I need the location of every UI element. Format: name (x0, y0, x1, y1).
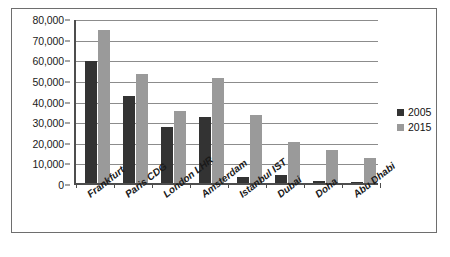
legend-swatch-2015-icon (397, 124, 404, 131)
bar-2015-frankfurt (98, 30, 110, 183)
bar-2015-amsterdam (212, 78, 224, 183)
y-tick-label: 60,000 (32, 55, 64, 67)
legend-label-2015: 2015 (408, 121, 431, 133)
x-tick-mark (76, 183, 77, 188)
y-tick-mark (65, 185, 70, 186)
bar-group (78, 20, 116, 183)
y-tick-label: 20,000 (32, 138, 64, 150)
y-tick-label: 0 (58, 179, 64, 191)
x-tick-mark (114, 183, 115, 188)
legend-label-2005: 2005 (408, 106, 431, 118)
y-tick-label: 80,000 (32, 14, 64, 26)
y-tick-mark (65, 40, 70, 41)
bar-group (268, 20, 306, 183)
y-axis: 80,00070,00060,00050,00040,00030,00020,0… (12, 20, 70, 185)
y-tick-label: 40,000 (32, 97, 64, 109)
bar-2005-london-lhr (161, 127, 173, 183)
x-tick-mark (152, 183, 153, 188)
legend-swatch-2005-icon (397, 109, 404, 116)
y-tick-mark (65, 81, 70, 82)
y-tick-mark (65, 102, 70, 103)
x-tick-mark (304, 183, 305, 188)
x-tick-mark (228, 183, 229, 188)
x-tick-mark (342, 183, 343, 188)
plot-area (74, 20, 378, 185)
y-tick-label: 10,000 (32, 158, 64, 170)
x-tick-mark (190, 183, 191, 188)
bar-group (116, 20, 154, 183)
bar-2015-paris-cdg (136, 74, 148, 183)
y-tick-mark (65, 143, 70, 144)
y-tick-mark (65, 123, 70, 124)
x-tick-mark (266, 183, 267, 188)
chart-frame: 80,00070,00060,00050,00040,00030,00020,0… (11, 8, 437, 233)
bar-group (344, 20, 382, 183)
y-tick-mark (65, 164, 70, 165)
y-tick-label: 30,000 (32, 117, 64, 129)
y-tick-mark (65, 20, 70, 21)
y-tick-label: 70,000 (32, 35, 64, 47)
y-tick-mark (65, 61, 70, 62)
legend-item-2005: 2005 (397, 105, 447, 119)
x-tick-mark (380, 183, 381, 188)
legend-item-2015: 2015 (397, 120, 447, 134)
bar-group (230, 20, 268, 183)
bar-2005-frankfurt (85, 61, 97, 183)
y-tick-label: 50,000 (32, 76, 64, 88)
bar-group (306, 20, 344, 183)
bars-layer (78, 20, 378, 183)
bar-group (154, 20, 192, 183)
chart-legend: 2005 2015 (397, 105, 447, 135)
